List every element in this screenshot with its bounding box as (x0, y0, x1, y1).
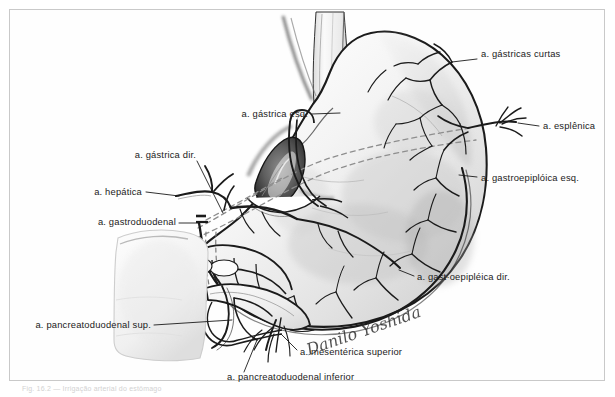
figure-caption: Fig. 16.2 — Irrigação arterial do estôma… (22, 385, 162, 392)
label-pancreatoduodenal-sup: a. pancreatoduodenal sup. (35, 320, 151, 329)
leader-hepatica (146, 192, 179, 196)
leader-gastrica-dir (197, 161, 223, 213)
leader-pancreatoduodenal-inf (244, 340, 257, 372)
label-pancreatoduodenal-inf: a. pancreatoduodenal inferior (227, 372, 354, 381)
label-hepatica: a. hepática (94, 187, 142, 196)
label-gastroepiploica-esq: a. gastroepiplóica esq. (481, 173, 579, 182)
label-esplenica: a. esplênica (543, 121, 595, 130)
leader-esplenica (518, 123, 539, 126)
leader-gastricas-curtas (452, 59, 477, 62)
figure-page: a. gástricas curtasa. esplênicaa. gastro… (0, 0, 615, 397)
stomach-body (200, 32, 487, 327)
label-gastroepiploica-dir: a. gast·oepipléica dir. (417, 272, 510, 281)
label-gastrica-esq: a. gástrica esq. (242, 109, 308, 118)
pancreas (114, 230, 208, 361)
label-gastroduodenal: a. gastroduodenal (98, 217, 176, 226)
label-gastricas-curtas: a. gástricas curtas (481, 49, 561, 58)
label-gastrica-dir: a. gástrica dir. (135, 150, 196, 159)
anatomical-illustration (0, 0, 615, 397)
